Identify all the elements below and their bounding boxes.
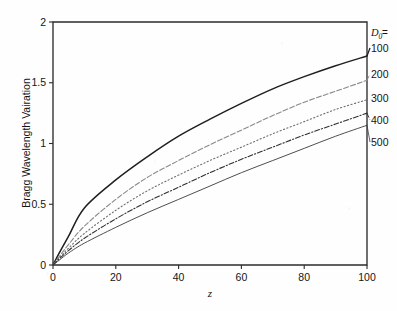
legend-label-200: 200 bbox=[371, 68, 389, 80]
series-line-300 bbox=[53, 100, 367, 265]
y-tick-label-0: 0 bbox=[40, 259, 46, 271]
legend-label-400: 400 bbox=[371, 114, 389, 126]
legend-label-100: 100 bbox=[371, 42, 389, 54]
plot-frame bbox=[53, 22, 367, 265]
x-axis-title: z bbox=[207, 287, 213, 299]
x-tick-label-40: 40 bbox=[173, 271, 185, 283]
x-tick-label-60: 60 bbox=[236, 271, 248, 283]
y-tick-label-2: 2 bbox=[40, 16, 46, 28]
y-axis-tick-labels: 00.511.52 bbox=[31, 16, 46, 271]
y-tick-label-0.5: 0.5 bbox=[31, 198, 46, 210]
y-axis-title: Bragg Wavelength Vairation bbox=[20, 78, 32, 208]
bragg-wavelength-chart: 00.511.52 020406080100 100200300400500 D… bbox=[0, 0, 397, 311]
series-line-400 bbox=[53, 113, 367, 265]
x-tick-label-80: 80 bbox=[298, 271, 310, 283]
legend-title-equals: = bbox=[382, 27, 388, 38]
legend-label-500: 500 bbox=[371, 136, 389, 148]
data-series-group bbox=[53, 56, 367, 265]
legend-label-300: 300 bbox=[371, 92, 389, 104]
series-line-500 bbox=[53, 125, 367, 265]
x-tick-label-0: 0 bbox=[50, 271, 56, 283]
legend-title-group: D 0 = bbox=[370, 27, 388, 41]
figure-container: 00.511.52 020406080100 100200300400500 D… bbox=[0, 0, 397, 311]
y-tick-label-1: 1 bbox=[40, 137, 46, 149]
y-tick-label-1.5: 1.5 bbox=[31, 76, 46, 88]
x-tick-label-20: 20 bbox=[110, 271, 122, 283]
legend: 100200300400500 bbox=[367, 42, 389, 148]
x-axis-tick-labels: 020406080100 bbox=[50, 271, 376, 283]
x-tick-label-100: 100 bbox=[358, 271, 376, 283]
